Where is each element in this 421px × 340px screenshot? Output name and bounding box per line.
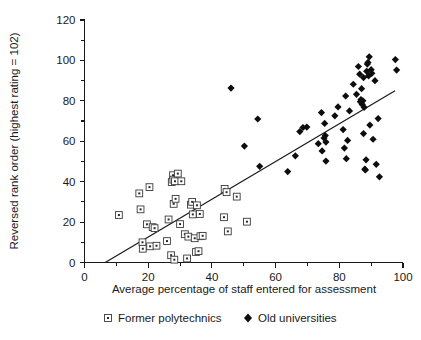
data-point-old-university <box>366 121 373 128</box>
data-point-former-polytechnic-dot <box>226 191 228 193</box>
data-point-old-university <box>376 173 383 180</box>
data-point-former-polytechnic-dot <box>168 218 170 220</box>
data-point-former-polytechnic-dot <box>196 204 198 206</box>
data-point-old-university <box>227 85 234 92</box>
regression-line-segment <box>105 91 395 263</box>
y-axis-major-ticks <box>80 20 85 263</box>
legend-item-former-polytechnics: Former polytechnics <box>105 312 222 324</box>
data-point-former-polytechnic-dot <box>138 192 140 194</box>
y-tick-label: 40 <box>63 176 76 188</box>
legend-square-center-dot-icon <box>107 317 109 319</box>
x-axis-tick-labels: 020406080100 <box>81 271 412 283</box>
data-point-former-polytechnic-dot <box>146 223 148 225</box>
y-tick-label: 100 <box>56 54 75 66</box>
data-point-former-polytechnic-dot <box>246 221 248 223</box>
data-point-former-polytechnic-dot <box>174 180 176 182</box>
data-point-former-polytechnic-dot <box>154 227 156 229</box>
data-point-former-polytechnic-dot <box>141 241 143 243</box>
data-point-old-university <box>284 168 291 175</box>
data-point-former-polytechnic-dot <box>140 208 142 210</box>
legend-label-former-polytechnics: Former polytechnics <box>118 312 222 324</box>
chart-canvas: 020406080100120 020406080100 Average per… <box>0 0 421 340</box>
data-point-old-university <box>319 147 326 154</box>
data-point-old-university <box>315 140 322 147</box>
data-point-old-university <box>350 81 357 88</box>
data-point-former-polytechnic-dot <box>192 213 194 215</box>
data-point-old-university <box>392 56 399 63</box>
legend-label-old-universities: Old universities <box>258 312 337 324</box>
data-point-former-polytechnic-dot <box>194 237 196 239</box>
x-axis-title: Average percentage of staff entered for … <box>112 283 377 295</box>
data-point-former-polytechnic-dot <box>223 216 225 218</box>
data-point-old-university <box>353 91 360 98</box>
data-point-former-polytechnic-dot <box>191 201 193 203</box>
data-point-old-university <box>341 145 348 152</box>
data-point-old-university <box>318 109 325 116</box>
data-point-former-polytechnic-dot <box>149 245 151 247</box>
x-axis-group: 020406080100 <box>81 263 412 283</box>
data-point-old-university <box>322 157 329 164</box>
y-tick-label: 20 <box>63 216 76 228</box>
data-point-old-university <box>355 63 362 70</box>
y-axis-tick-labels: 020406080100120 <box>56 14 75 269</box>
x-tick-label: 20 <box>142 271 155 283</box>
legend: Former polytechnics Old universities <box>105 312 337 324</box>
data-point-former-polytechnic-dot <box>186 257 188 259</box>
y-tick-label: 120 <box>56 14 75 26</box>
regression-line <box>105 91 395 263</box>
data-point-former-polytechnic-dot <box>199 213 201 215</box>
data-point-former-polytechnic-dot <box>198 250 200 252</box>
y-tick-label: 80 <box>63 95 76 107</box>
x-tick-label: 80 <box>333 271 346 283</box>
data-point-former-polytechnic-dot <box>187 236 189 238</box>
y-axis-title: Reversed rank order (highest rating = 10… <box>8 32 20 249</box>
data-point-former-polytechnic-dot <box>202 235 204 237</box>
data-point-former-polytechnic-dot <box>175 198 177 200</box>
legend-item-old-universities: Old universities <box>244 312 337 324</box>
y-axis-group: 020406080100120 <box>56 14 84 269</box>
data-point-old-university <box>331 112 338 119</box>
data-point-former-polytechnic-dot <box>148 186 150 188</box>
data-point-old-university <box>393 67 400 74</box>
data-point-old-university <box>375 115 382 122</box>
series-old-universities-points <box>227 53 400 180</box>
data-point-old-university <box>334 103 341 110</box>
data-point-former-polytechnic-dot <box>173 203 175 205</box>
data-point-old-university <box>340 126 347 133</box>
y-tick-label: 60 <box>63 135 76 147</box>
y-tick-label: 0 <box>69 257 75 269</box>
x-tick-label: 100 <box>393 271 412 283</box>
data-point-old-university <box>366 53 373 60</box>
data-point-former-polytechnic-dot <box>155 245 157 247</box>
data-point-former-polytechnic-dot <box>180 180 182 182</box>
data-point-former-polytechnic-dot <box>118 214 120 216</box>
data-point-former-polytechnic-dot <box>173 259 175 261</box>
data-point-old-university <box>346 107 353 114</box>
scatter-plot-figure: 020406080100120 020406080100 Average per… <box>0 0 421 340</box>
data-point-old-university <box>358 85 365 92</box>
data-point-old-university <box>373 161 380 168</box>
data-point-old-university <box>369 136 376 143</box>
data-point-old-university <box>342 92 349 99</box>
data-point-old-university <box>343 155 350 162</box>
data-point-former-polytechnic-dot <box>227 230 229 232</box>
data-point-old-university <box>362 156 369 163</box>
data-point-old-university <box>360 130 367 137</box>
data-point-former-polytechnic-dot <box>236 196 238 198</box>
data-point-old-university <box>344 137 351 144</box>
data-point-old-university <box>254 115 261 122</box>
data-point-former-polytechnic-dot <box>177 173 179 175</box>
x-tick-label: 60 <box>269 271 282 283</box>
data-point-former-polytechnic-dot <box>166 240 168 242</box>
data-point-old-university <box>321 120 328 127</box>
data-point-former-polytechnic-dot <box>142 248 144 250</box>
x-tick-label: 40 <box>206 271 219 283</box>
data-point-old-university <box>241 143 248 150</box>
data-point-old-university <box>371 77 378 84</box>
data-point-old-university <box>292 152 299 159</box>
x-tick-label: 0 <box>81 271 87 283</box>
data-point-former-polytechnic-dot <box>179 223 181 225</box>
legend-filled-diamond-icon <box>244 314 252 323</box>
